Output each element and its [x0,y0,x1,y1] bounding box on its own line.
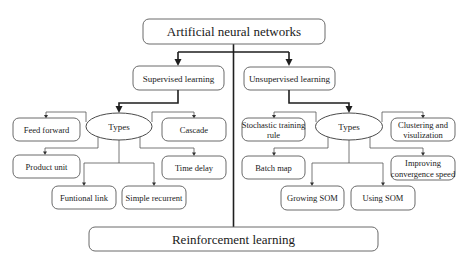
unsupervised-type-using-som: Using SOM [351,186,415,210]
unsupervised-type-clustering-visualization: Clustering and visulization [391,118,455,141]
supervised-types-hub: Types [86,113,152,140]
arrow-down-icon [286,59,293,66]
supervised-type-functional-link: Funtional link [52,186,116,209]
arrow-down-icon [116,106,123,113]
svg-text:Simple recurrent: Simple recurrent [126,193,184,203]
unsupervised-hub-connector [289,90,353,113]
supervised-type-simple-recurrent: Simple recurrent [122,186,186,209]
root-node: Artificial neural networks [143,19,325,44]
unsupervised-type-batch-map: Batch map [242,156,305,179]
unsupervised-type-improving-convergence: Improving convergence speed [391,156,456,180]
svg-text:Product unit: Product unit [26,162,68,172]
arrow-down-icon [346,106,353,113]
root-label: Artificial neural networks [167,24,301,39]
svg-text:Improving: Improving [405,158,442,168]
svg-text:Batch map: Batch map [255,163,292,173]
svg-text:Stochastic training: Stochastic training [242,120,306,130]
svg-text:Using SOM: Using SOM [363,193,404,203]
supervised-label: Supervised learning [143,74,215,84]
reinforcement-node: Reinforcement learning [89,227,378,251]
supervised-type-time-delay: Time delay [162,156,226,179]
unsupervised-label: Unsupervised learning [249,74,331,84]
supervised-hub-label: Types [108,122,130,132]
supervised-hub-connector [116,90,179,113]
supervised-node: Supervised learning [133,66,224,90]
svg-text:Cascade: Cascade [180,125,209,135]
unsupervised-type-growing-som: Growing SOM [281,186,344,210]
svg-text:Feed forward: Feed forward [24,125,70,135]
unsupervised-types-hub: Types [316,113,383,140]
svg-text:visulization: visulization [403,130,443,140]
svg-text:Funtional link: Funtional link [60,193,109,203]
unsupervised-node: Unsupervised learning [244,67,335,90]
reinforcement-label: Reinforcement learning [172,232,296,247]
unsupervised-type-stochastic-training-rule: Stochastic training rule [242,118,306,141]
supervised-type-product-unit: Product unit [13,155,80,178]
svg-text:Time delay: Time delay [175,163,214,173]
svg-text:convergence speed: convergence speed [391,169,456,179]
supervised-type-cascade: Cascade [162,118,226,141]
unsupervised-hub-label: Types [338,122,360,132]
svg-text:Growing SOM: Growing SOM [287,193,338,203]
supervised-type-feed-forward: Feed forward [13,118,80,141]
ann-taxonomy-diagram: Artificial neural networks Supervised le… [0,0,467,263]
svg-text:rule: rule [267,130,280,140]
arrow-down-icon [175,59,182,66]
svg-text:Clustering and: Clustering and [398,120,449,130]
